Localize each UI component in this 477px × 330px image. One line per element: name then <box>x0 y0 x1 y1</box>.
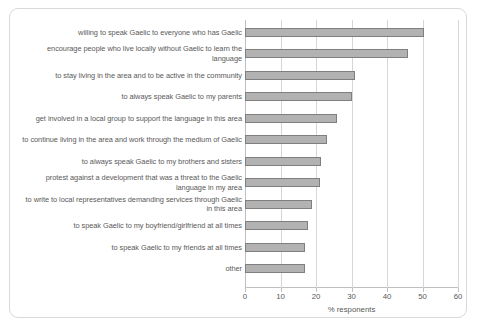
bar <box>245 221 308 230</box>
bar <box>245 49 408 58</box>
bar <box>245 135 327 144</box>
category-label: get involved in a local group to support… <box>20 114 242 123</box>
bar-row <box>245 49 458 58</box>
category-label: protest against a development that was a… <box>20 173 242 192</box>
bar-row <box>245 200 458 209</box>
bar-row <box>245 264 458 273</box>
x-axis-tick-label: 10 <box>269 292 293 301</box>
bar <box>245 178 320 187</box>
bar <box>245 200 312 209</box>
bar-row <box>245 71 458 80</box>
bar-row <box>245 92 458 101</box>
bar-row <box>245 178 458 187</box>
x-axis-tick-label: 40 <box>375 292 399 301</box>
category-label: to always speak Gaelic to my parents <box>20 92 242 101</box>
category-label: to speak Gaelic to my boyfriend/girlfrie… <box>20 221 242 230</box>
x-axis-tick-label: 30 <box>340 292 364 301</box>
category-label: encourage people who live locally withou… <box>20 44 242 63</box>
bar <box>245 71 355 80</box>
bar <box>245 243 305 252</box>
bar <box>245 264 305 273</box>
bar-row <box>245 28 458 37</box>
category-label: to write to local representatives demand… <box>20 195 242 214</box>
gridline <box>458 20 459 288</box>
plot-area <box>245 20 458 288</box>
x-axis-tick-label: 60 <box>446 292 470 301</box>
category-axis-labels: willing to speak Gaelic to everyone who … <box>18 0 242 330</box>
x-axis-tick-label: 0 <box>233 292 257 301</box>
x-axis-title: % responents <box>245 305 458 314</box>
x-axis-tick-label: 20 <box>304 292 328 301</box>
bar-row <box>245 114 458 123</box>
category-label: to continue living in the area and work … <box>20 135 242 144</box>
bar <box>245 157 321 166</box>
bar-row <box>245 221 458 230</box>
category-label: to stay living in the area and to be act… <box>20 71 242 80</box>
bar-chart: willing to speak Gaelic to everyone who … <box>0 0 477 330</box>
bar <box>245 114 337 123</box>
bar <box>245 92 352 101</box>
bar-row <box>245 135 458 144</box>
bar-row <box>245 157 458 166</box>
chart-figure: willing to speak Gaelic to everyone who … <box>0 0 477 330</box>
category-label: to always speak Gaelic to my brothers an… <box>20 157 242 166</box>
category-label: willing to speak Gaelic to everyone who … <box>20 28 242 37</box>
category-label: other <box>20 264 242 273</box>
x-axis-tick-label: 50 <box>411 292 435 301</box>
category-label: to speak Gaelic to my friends at all tim… <box>20 243 242 252</box>
bar-row <box>245 243 458 252</box>
bar <box>245 28 424 37</box>
